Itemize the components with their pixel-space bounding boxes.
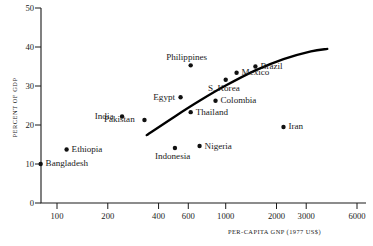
x-axis-title: PER-CAPITA GNP (1977 US$) [228,228,321,235]
data-point [197,144,201,148]
data-point [188,63,192,67]
y-tick-label: 10 [6,160,34,169]
point-label-philippines: Philippines [166,53,207,62]
point-label-nigeria: Nigeria [205,142,232,151]
y-axis-title: PERCENT OF GDP [11,73,18,143]
y-tick-label: 40 [6,43,34,52]
data-point [142,118,146,122]
x-tick-label: 6000 [337,212,373,221]
data-point [173,146,177,150]
scatter-chart: 01020304050 1002004006001000200030006000… [0,0,373,246]
point-label-ethiopia: Ethiopia [72,145,103,154]
data-point [64,147,68,151]
point-label-egypt: Egypt [153,93,175,102]
data-point [234,71,238,75]
data-point [188,110,192,114]
point-label-thailand: Thailand [196,108,228,117]
point-label-colombia: Colombia [221,96,257,105]
plot-canvas [0,0,373,246]
point-label-iran: Iran [289,122,304,131]
axes-group [41,8,366,203]
point-label-brazil: Brazil [260,62,282,71]
x-tick-label: 100 [37,212,77,221]
point-label-bangladesh: Bangladesh [46,159,88,168]
y-tick-label: 50 [6,4,34,13]
point-label-s-korea: S. Korea [208,84,240,93]
data-point [213,99,217,103]
data-point [38,162,42,166]
data-point [224,78,228,82]
x-tick-label: 3000 [286,212,326,221]
x-tick-label: 1000 [206,212,246,221]
y-tick-label: 0 [6,199,34,208]
x-tick-label: 200 [88,212,128,221]
x-tick-label: 600 [168,212,208,221]
point-label-indonesia: Indonesia [155,152,190,161]
data-point [281,125,285,129]
point-label-pakistan: Pakistan [104,115,135,124]
data-point [178,95,182,99]
